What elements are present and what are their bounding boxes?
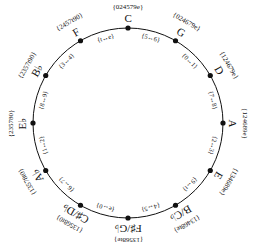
note-label: A bbox=[227, 119, 238, 127]
node-dot bbox=[173, 38, 178, 43]
pitch-set-label: {024579e} bbox=[113, 4, 144, 11]
node-dot bbox=[208, 73, 213, 78]
node-dot bbox=[208, 168, 213, 173]
note-label: C bbox=[125, 13, 132, 24]
node-dot bbox=[30, 120, 35, 125]
pitch-set-label: {124689e} bbox=[240, 108, 247, 139]
circle-ring bbox=[33, 28, 223, 218]
node-dot bbox=[125, 25, 130, 30]
note-label: F♯/G♭ bbox=[114, 223, 142, 234]
node-dot bbox=[220, 120, 225, 125]
node-dot bbox=[173, 203, 178, 208]
circle-svg bbox=[0, 0, 257, 251]
node-dot bbox=[78, 203, 83, 208]
circle-of-fifths-diagram: C{024579e}G{024679e}D{124679e}A{124689e}… bbox=[0, 0, 257, 251]
node-dots bbox=[30, 25, 225, 220]
node-dot bbox=[125, 215, 130, 220]
pitch-set-label: {13568te} bbox=[114, 236, 143, 243]
note-label: E♭ bbox=[17, 117, 28, 129]
node-dot bbox=[43, 168, 48, 173]
node-dot bbox=[78, 38, 83, 43]
node-dot bbox=[43, 73, 48, 78]
pitch-set-label: {235780} bbox=[8, 109, 15, 137]
